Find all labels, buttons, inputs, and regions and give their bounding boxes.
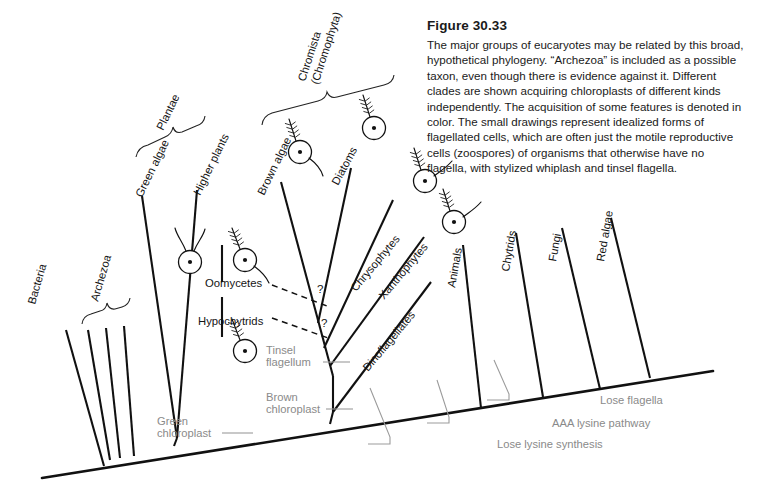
anno-line-lose-flagella	[487, 360, 509, 400]
taxon-label-chytrids: Chytrids	[499, 229, 518, 272]
branch-green-algae	[142, 196, 177, 438]
taxon-label-higher-plants: Higher plants	[191, 131, 231, 196]
annotation-tinsel-line1: Tinsel	[266, 344, 295, 356]
nucleus-icon	[243, 258, 247, 262]
branch-fungi	[562, 228, 600, 389]
taxon-label-hypochytrids: Hypochytrids	[198, 315, 264, 327]
taxon-label-red-algae: Red algae	[594, 210, 615, 263]
branch-archezoa-1	[88, 330, 110, 460]
cell-drawing-diatoms	[359, 95, 385, 140]
nucleus-icon	[188, 260, 192, 264]
branch-archezoa-3	[124, 326, 134, 456]
nucleus-icon	[372, 126, 376, 130]
question-mark-2: ?	[321, 317, 327, 329]
branch-red-algae	[611, 218, 650, 378]
anno-line-lose-lysine	[368, 388, 390, 444]
annotation-green-line2: chloroplast	[157, 427, 212, 439]
annotation-group: Tinsel flagellum Brown chloroplast Green…	[157, 344, 664, 450]
cell-drawing-plantae	[175, 228, 205, 274]
cell-drawing-brown-algae	[285, 119, 323, 176]
bracket-plantae	[136, 116, 205, 157]
taxon-label-archezoa: Archezoa	[88, 253, 113, 303]
branch-chytrids	[516, 233, 543, 397]
tinsel-flagellum-icon	[232, 228, 240, 249]
whiplash-flagellum-icon	[309, 158, 323, 176]
taxon-label-brown-algae: Brown algae	[255, 135, 293, 197]
taxon-label-plantae: Plantae	[154, 92, 182, 132]
annotation-brown-line1: Brown	[266, 391, 298, 403]
branch-higher-plants	[177, 190, 197, 438]
annotation-lose-lysine-synthesis: Lose lysine synthesis	[497, 438, 603, 450]
figure-caption-text: The major groups of eucaryotes may be re…	[427, 37, 747, 176]
annotation-lose-flagella: Lose flagella	[600, 394, 664, 406]
branch-bacteria	[66, 330, 104, 466]
annotation-green-line1: Green	[157, 415, 188, 427]
cell-drawing-xanthophytes	[439, 189, 481, 234]
branch-animals	[463, 245, 481, 408]
figure-page: Bacteria Archezoa Green algae Higher pla…	[0, 0, 764, 491]
taxon-label-diatoms: Diatoms	[329, 144, 359, 187]
bracket-archezoa	[82, 298, 130, 324]
stem-plantae	[174, 438, 177, 446]
nucleus-icon	[298, 150, 302, 154]
question-mark-1: ?	[317, 283, 323, 295]
nucleus-icon	[452, 220, 456, 224]
branch-archezoa-2	[106, 328, 120, 458]
whiplash-flagellum-icon	[463, 202, 481, 217]
whiplash-flagellum-icon	[194, 229, 205, 251]
annotation-brown-line2: chloroplast	[266, 403, 321, 415]
nucleus-icon	[243, 349, 247, 353]
stem-chromista-root	[330, 412, 333, 424]
cell-drawing-oomycetes	[228, 228, 269, 283]
whiplash-flagellum-icon	[175, 228, 186, 251]
taxon-label-oomycetes: Oomycetes	[205, 277, 262, 289]
annotation-aaa-lysine-pathway: AAA lysine pathway	[552, 417, 651, 429]
figure-title: Figure 30.33	[427, 18, 747, 33]
taxon-label-animals: Animals	[445, 246, 464, 288]
taxon-label-fungi: Fungi	[546, 232, 563, 262]
figure-caption: Figure 30.33 The major groups of eucaryo…	[427, 18, 747, 176]
nucleus-icon	[423, 179, 427, 183]
taxon-label-green-algae: Green algae	[133, 138, 171, 199]
annotation-tinsel-line2: flagellum	[266, 356, 311, 368]
taxon-label-bacteria: Bacteria	[25, 262, 48, 306]
taxon-label-dinoflagellates: Dinoflagellates	[360, 309, 417, 374]
